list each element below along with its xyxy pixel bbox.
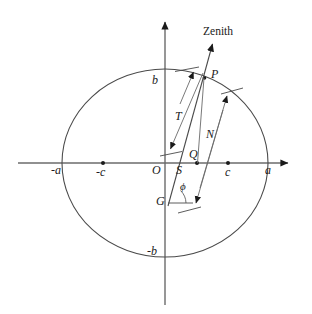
angle-phi-label: ϕ — [180, 181, 186, 192]
point-s-label: S — [176, 164, 182, 176]
tangent-tick-lower — [160, 152, 182, 157]
p-to-q-dropline — [198, 78, 205, 163]
semi-minor-positive-label: b — [152, 74, 158, 86]
normal-tick-upper — [221, 88, 243, 94]
zenith-label: Zenith — [203, 26, 233, 38]
semi-major-negative-label: -a — [51, 164, 61, 176]
normal-tick-lower — [178, 207, 201, 213]
point-p-label: P — [211, 68, 218, 80]
ellipse-diagram-svg — [0, 0, 312, 314]
focus-negative-label: -c — [96, 166, 105, 178]
semi-minor-negative-label: -b — [147, 245, 157, 257]
semi-major-positive-label: a — [265, 164, 271, 176]
point-q-label: Q — [189, 148, 198, 160]
vector-t-label: T — [175, 110, 182, 122]
vector-n-label: N — [206, 128, 214, 140]
focus-positive-label: c — [225, 166, 230, 178]
diagram-root: Zenith P Q S O G T N ϕ a -a b -b c -c — [0, 0, 312, 314]
point-g-label: G — [156, 195, 165, 207]
point-q-dot — [195, 161, 199, 165]
origin-label: O — [152, 164, 161, 176]
phi-angle-arc — [181, 191, 187, 204]
